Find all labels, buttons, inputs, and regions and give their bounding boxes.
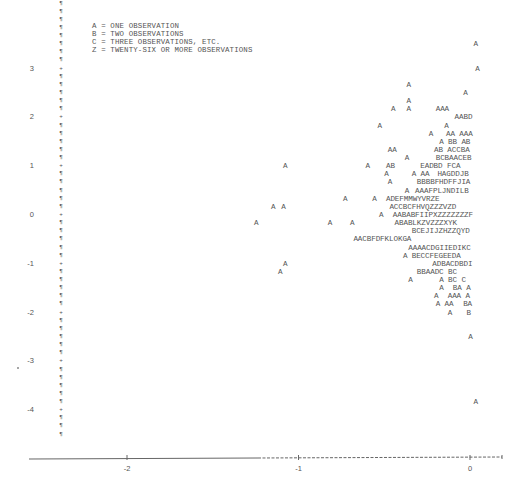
plot-mark: BA	[463, 300, 472, 308]
y-axis-fill-mark: ¶	[57, 106, 65, 112]
plot-mark: AACBFDFKLOKGA	[353, 235, 411, 243]
y-axis-tick: +	[57, 358, 65, 364]
plot-mark: BCBAACEB	[436, 154, 472, 162]
y-axis-fill-mark: ¶	[57, 49, 65, 55]
y-axis-fill-mark: ¶	[57, 98, 65, 104]
y-axis-fill-mark: ¶	[57, 367, 65, 373]
plot-mark: ADBACDBDI	[432, 260, 472, 268]
plot-mark: ACCBCFHVQZZZVZD	[389, 203, 456, 211]
plot-mark: AB ACCBA	[434, 146, 470, 154]
y-axis-fill-mark: ¶	[57, 342, 65, 348]
plot-mark: BBBBFHDFFJIA	[417, 178, 470, 186]
y-axis-fill-mark: ¶	[57, 139, 65, 145]
plot-mark: A	[434, 292, 438, 300]
x-tick-label: -1	[295, 464, 302, 473]
y-axis-fill-mark: ¶	[57, 415, 65, 421]
y-axis-fill-mark: ¶	[57, 196, 65, 202]
y-tick-label: -4	[14, 405, 34, 414]
plot-mark: AA AAA	[446, 130, 473, 138]
plot-mark: HAGDDJB	[437, 170, 468, 178]
y-axis-fill-mark: ¶	[57, 57, 65, 63]
x-tick-label: 0	[468, 464, 472, 473]
y-axis-tick: +	[57, 114, 65, 120]
y-axis-fill-mark: ¶	[57, 285, 65, 291]
y-axis-fill-mark: ¶	[57, 318, 65, 324]
plot-mark: A	[350, 219, 354, 227]
plot-mark: AA	[388, 146, 397, 154]
y-axis-fill-mark: ¶	[57, 82, 65, 88]
plot-mark: A	[439, 284, 443, 292]
plot-mark: A AA	[436, 300, 454, 308]
plot-mark: A	[429, 130, 433, 138]
plot-mark: A	[379, 211, 383, 219]
y-axis-fill-mark: ¶	[57, 432, 65, 438]
plot-mark: A	[271, 203, 275, 211]
y-tick-label: 3	[14, 64, 34, 73]
plot-mark: ABABLKZVZZZXYK	[395, 219, 457, 227]
y-axis-fill-mark: ¶	[57, 350, 65, 356]
y-axis-fill-mark: ¶	[57, 228, 65, 234]
y-axis-tick: +	[57, 407, 65, 413]
y-axis-fill-mark: ¶	[57, 131, 65, 137]
y-axis-fill-mark: ¶	[57, 171, 65, 177]
y-axis-fill-mark: ¶	[57, 236, 65, 242]
plot-mark: A	[405, 154, 409, 162]
plot-mark: A	[384, 170, 388, 178]
y-axis-fill-mark: ¶	[57, 391, 65, 397]
y-tick-label: -2	[14, 308, 34, 317]
plot-mark: A	[407, 97, 411, 105]
y-axis-tick: +	[57, 163, 65, 169]
scan-speck	[17, 367, 19, 369]
plot-mark: A	[283, 162, 287, 170]
y-axis-fill-mark: ¶	[57, 17, 65, 23]
plot-mark: A	[343, 195, 347, 203]
y-axis-tick: +	[57, 310, 65, 316]
plot-mark: BBAADC BC	[417, 268, 457, 276]
plot-mark: A	[365, 162, 369, 170]
plot-mark: A	[463, 89, 467, 97]
y-axis-fill-mark: ¶	[57, 399, 65, 405]
y-axis-fill-mark: ¶	[57, 123, 65, 129]
y-tick-label: 1	[14, 161, 34, 170]
plot-mark: AAAFPLJNDILB	[415, 187, 468, 195]
y-axis-fill-mark: ¶	[57, 179, 65, 185]
plot-mark: BECCFEGEEDA	[412, 252, 461, 260]
legend-entry-z: Z = TWENTY-SIX OR MORE OBSERVATIONS	[92, 46, 252, 54]
legend-entry-b: B = TWO OBSERVATIONS	[92, 30, 184, 38]
plot-mark: A	[254, 219, 258, 227]
x-axis-line-solid	[29, 458, 258, 459]
plot-mark: A AA	[412, 170, 430, 178]
plot-mark: A	[475, 65, 479, 73]
y-axis-fill-mark: ¶	[57, 33, 65, 39]
y-axis-fill-mark: ¶	[57, 293, 65, 299]
y-axis-fill-mark: ¶	[57, 375, 65, 381]
y-axis-fill-mark: ¶	[57, 326, 65, 332]
plot-mark: A	[473, 40, 477, 48]
plot-mark: AABABFIIPXZZZZZZZF	[393, 211, 473, 219]
y-axis-fill-mark: ¶	[57, 74, 65, 80]
plot-mark: AABD	[455, 113, 473, 121]
plot-mark: B	[467, 309, 471, 317]
plot-mark: A	[408, 276, 412, 284]
plot-mark: A	[403, 252, 407, 260]
plot-mark: A	[388, 178, 392, 186]
y-axis-fill-mark: ¶	[57, 301, 65, 307]
plot-mark: A	[391, 105, 395, 113]
y-axis-fill-mark: ¶	[57, 245, 65, 251]
plot-mark: EADBD FCA	[420, 162, 460, 170]
y-axis-fill-mark: ¶	[57, 334, 65, 340]
y-tick-label: -1	[14, 259, 34, 268]
plot-mark: A	[405, 187, 409, 195]
plot-mark: AAAACDGIIEDIKC	[408, 244, 470, 252]
plot-mark: A	[328, 219, 332, 227]
y-axis-tick: +	[57, 212, 65, 218]
legend-entry-a: A = ONE OBSERVATION	[92, 22, 179, 30]
y-axis-fill-mark: ¶	[57, 383, 65, 389]
y-tick-label: 0	[14, 210, 34, 219]
legend-entry-c: C = THREE OBSERVATIONS, ETC.	[92, 38, 220, 46]
plot-mark: A	[377, 122, 381, 130]
plot-mark: A BB AB	[439, 138, 470, 146]
y-tick-label: 2	[14, 112, 34, 121]
y-axis-tick: +	[57, 66, 65, 72]
plot-mark: A	[372, 195, 376, 203]
